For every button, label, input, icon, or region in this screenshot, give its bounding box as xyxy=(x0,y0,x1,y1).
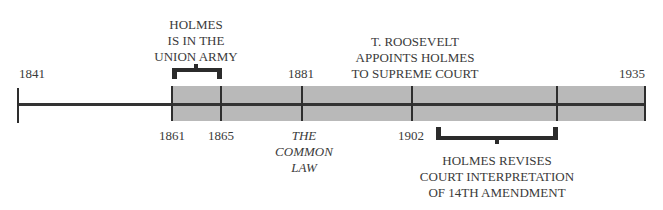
tick-1935 xyxy=(644,86,646,121)
tick-amendment-end xyxy=(556,86,558,121)
event-supreme-court-line-2: APPOINTS HOLMES xyxy=(340,50,490,66)
event-amendment-line-3: OF 14TH AMENDMENT xyxy=(412,185,582,201)
event-common-law: THE COMMON LAW xyxy=(268,128,340,176)
event-common-law-line-2: COMMON xyxy=(268,144,340,160)
tick-1865 xyxy=(220,86,222,121)
event-amendment-line-1: HOLMES REVISES xyxy=(412,153,582,169)
event-common-law-line-1: THE xyxy=(268,128,340,144)
event-supreme-court-line-3: TO SUPREME COURT xyxy=(340,66,490,82)
year-label-1841: 1841 xyxy=(19,66,45,81)
event-union-army-line-1: HOLMES xyxy=(146,17,246,33)
event-union-army: HOLMES IS IN THE UNION ARMY xyxy=(146,17,246,65)
year-label-1902: 1902 xyxy=(398,128,424,143)
tick-1902 xyxy=(411,86,413,121)
event-fourteenth-amendment: HOLMES REVISES COURT INTERPRETATION OF 1… xyxy=(412,153,582,201)
event-common-law-line-3: LAW xyxy=(268,160,340,176)
year-label-1865: 1865 xyxy=(208,128,234,143)
year-label-1861: 1861 xyxy=(159,128,185,143)
event-supreme-court: T. ROOSEVELT APPOINTS HOLMES TO SUPREME … xyxy=(340,34,490,82)
event-amendment-line-2: COURT INTERPRETATION xyxy=(412,169,582,185)
tick-1841 xyxy=(17,88,19,123)
year-label-1935: 1935 xyxy=(619,66,645,81)
tick-1881 xyxy=(301,86,303,121)
tick-1861 xyxy=(171,86,173,121)
event-union-army-line-2: IS IN THE xyxy=(146,33,246,49)
year-label-1881: 1881 xyxy=(288,66,314,81)
timeline-axis xyxy=(18,103,646,106)
event-supreme-court-line-1: T. ROOSEVELT xyxy=(340,34,490,50)
event-union-army-line-3: UNION ARMY xyxy=(146,49,246,65)
